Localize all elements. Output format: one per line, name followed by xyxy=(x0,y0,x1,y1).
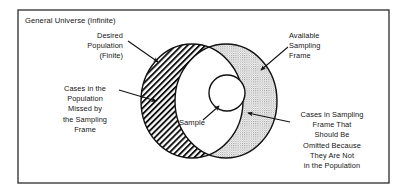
cases-missed-label-line-1: Cases in the xyxy=(64,84,106,93)
desired-population-label-line-2: Population xyxy=(87,41,123,50)
desired-population-label-line-3: (Finite) xyxy=(99,51,123,60)
cases-missed-label-line-3: Missed by xyxy=(68,104,102,113)
cases-missed-label-line-2: Population xyxy=(67,94,103,103)
available-sampling-frame-label-line-1: Available xyxy=(289,31,320,40)
figure-canvas: DesiredPopulation(Finite)AvailableSampli… xyxy=(0,0,407,195)
available-sampling-frame-label-line-3: Frame xyxy=(289,51,311,60)
cases-missed-label-line-4: the Sampling xyxy=(63,115,107,124)
cases-omitted-label-line-2: Frame That xyxy=(313,120,352,129)
cases-omitted-label-line-3: Should Be xyxy=(315,130,350,139)
general-universe-label: General Universe (Infinite) xyxy=(25,16,116,25)
sample-label: Sample xyxy=(179,118,205,127)
cases-omitted-label-line-5: They Are Not xyxy=(310,151,354,160)
cases-omitted-label-line-6: in the Population xyxy=(304,161,360,170)
desired-population-label-line-1: Desired xyxy=(97,31,123,40)
cases-omitted-label-line-1: Cases in Sampling xyxy=(301,110,364,119)
sample-circle xyxy=(209,75,245,111)
available-sampling-frame-label-line-2: Sampling xyxy=(289,41,320,50)
cases-omitted-label-line-4: Omitted Because xyxy=(303,141,361,150)
sample-label-line-1: Sample xyxy=(179,118,205,127)
cases-missed-label-line-5: Frame xyxy=(74,125,96,134)
sampling-frame-venn-diagram: DesiredPopulation(Finite)AvailableSampli… xyxy=(0,0,407,195)
